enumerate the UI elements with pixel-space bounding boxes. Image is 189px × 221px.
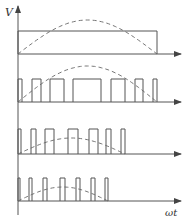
pulse-train	[18, 79, 157, 102]
waveform-row-single-pulse	[18, 20, 181, 54]
sine-reference-curve	[18, 138, 125, 154]
waveform-row-pwm-7-pulse-medium	[18, 129, 181, 154]
y-axis-label: V	[5, 6, 14, 19]
pulse-train	[18, 178, 108, 201]
sine-reference-curve	[18, 66, 157, 102]
pulse-train	[18, 129, 125, 154]
pwm-waveform-diagram: V ωt	[0, 0, 189, 221]
waveform-row-pwm-7-pulse-wide	[18, 66, 181, 102]
sine-reference-curve	[18, 20, 157, 54]
x-axis-label: ωt	[165, 207, 178, 218]
pulse-train	[18, 31, 157, 54]
waveform-row-pwm-7-pulse-narrow	[18, 178, 181, 201]
